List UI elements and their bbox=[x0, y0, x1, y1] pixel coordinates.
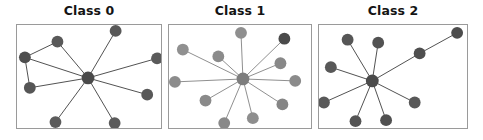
graph-edge bbox=[175, 79, 243, 82]
graph-node bbox=[342, 34, 354, 46]
graph-node bbox=[247, 112, 259, 124]
graph-node bbox=[275, 57, 287, 69]
graph-edge bbox=[243, 79, 295, 81]
graph-node bbox=[24, 82, 36, 94]
graph-node bbox=[218, 117, 230, 128]
graph-edge bbox=[420, 33, 457, 54]
graph-edge bbox=[331, 67, 372, 81]
plot-area-class-0 bbox=[16, 24, 162, 129]
graph-edge bbox=[205, 79, 242, 101]
graph-node bbox=[409, 97, 421, 109]
graph-node bbox=[276, 99, 288, 111]
graph-canvas-class-0 bbox=[17, 25, 161, 128]
panel-title-class-0: Class 0 bbox=[16, 3, 162, 19]
graph-canvas-class-1 bbox=[169, 25, 311, 128]
graph-node bbox=[372, 37, 384, 49]
graph-edge bbox=[348, 40, 373, 81]
graph-node bbox=[177, 44, 189, 56]
panel-class-1: Class 1 bbox=[168, 0, 312, 140]
graph-node bbox=[325, 61, 337, 73]
graph-node bbox=[212, 51, 224, 63]
graph-node bbox=[319, 97, 330, 109]
graph-edge bbox=[30, 78, 88, 88]
graph-hub-node bbox=[366, 75, 379, 88]
graph-node bbox=[414, 48, 426, 60]
graph-edge bbox=[372, 53, 419, 80]
graph-node bbox=[52, 36, 64, 48]
graph-edge bbox=[88, 58, 157, 78]
panel-title-class-2: Class 2 bbox=[318, 3, 468, 19]
graph-node bbox=[141, 89, 153, 101]
graph-node bbox=[289, 75, 301, 87]
graph-hub-node bbox=[82, 72, 95, 85]
graph-canvas-class-2 bbox=[319, 25, 467, 128]
graph-node bbox=[451, 27, 463, 39]
graph-node bbox=[151, 52, 161, 64]
graph-node bbox=[235, 27, 247, 39]
graph-node bbox=[278, 33, 290, 45]
panel-class-2: Class 2 bbox=[318, 0, 468, 140]
panel-class-0: Class 0 bbox=[16, 0, 162, 140]
graph-node bbox=[169, 76, 181, 88]
graph-class-figure: Class 0 Class 1 Class 2 bbox=[0, 0, 483, 140]
graph-node bbox=[19, 51, 31, 63]
graph-edge bbox=[183, 50, 243, 79]
graph-node bbox=[109, 117, 121, 128]
graph-hub-node bbox=[237, 73, 250, 86]
panel-title-class-1: Class 1 bbox=[168, 3, 312, 19]
plot-area-class-1 bbox=[168, 24, 312, 129]
graph-node bbox=[50, 116, 62, 128]
graph-node bbox=[350, 115, 362, 127]
graph-node bbox=[200, 95, 212, 107]
graph-node bbox=[380, 114, 392, 126]
graph-edge bbox=[55, 78, 88, 122]
graph-node bbox=[110, 25, 122, 37]
graph-edge bbox=[241, 33, 243, 79]
graph-edge bbox=[25, 57, 88, 78]
plot-area-class-2 bbox=[318, 24, 468, 129]
graph-edge bbox=[224, 79, 243, 123]
